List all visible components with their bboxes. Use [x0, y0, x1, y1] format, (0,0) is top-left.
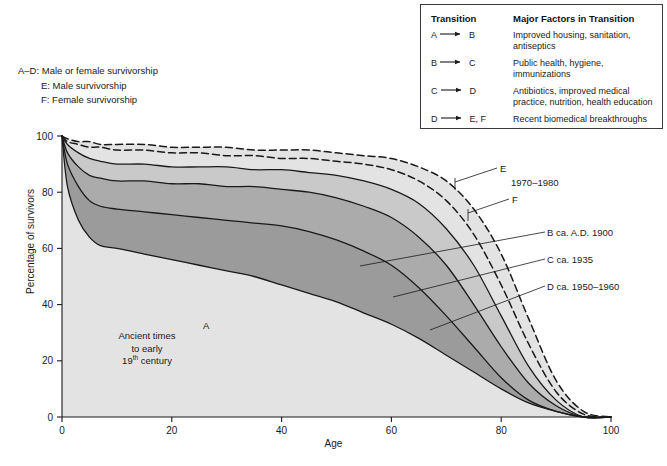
legend-rows: ABImproved housing, sanitation, antisept… [431, 30, 654, 131]
arrow-right-icon [440, 58, 466, 69]
transition-legend: Transition Major Factors in Transition A… [420, 4, 663, 129]
transition-to: D [470, 86, 477, 96]
ancient-line-2: to early [131, 343, 162, 354]
arrow-right-icon [441, 114, 467, 125]
x-tick-label: 20 [166, 425, 178, 436]
curve-label-a: A [203, 320, 209, 331]
transition-legend-table: Transition Major Factors in Transition A… [431, 13, 654, 131]
transition-from: C [431, 86, 438, 96]
leader-F [468, 199, 509, 213]
x-axis-title: Age [0, 438, 667, 449]
curve-label-c: C ca. 1935 [547, 254, 593, 265]
arrow-right-icon [440, 30, 466, 41]
legend-row: BCPublic health, hygiene, immunizations [431, 58, 654, 86]
key-line-ad: A–D: Male or female survivorship [18, 64, 158, 79]
x-tick-label: 40 [276, 425, 288, 436]
y-tick-label: 100 [36, 131, 53, 142]
y-axis-title: Percentage of survivors [25, 132, 36, 352]
legend-row: DE, FRecent biomedical breakthroughs [431, 114, 654, 131]
survivorship-figure: 020406080100020406080100 Percentage of s… [0, 0, 667, 466]
ancient-line-3-number: 19 [122, 355, 133, 366]
ancient-line-3-rest: century [138, 355, 172, 366]
transition-from: A [431, 30, 437, 40]
key-line-f: F: Female survivorship [18, 93, 158, 108]
legend-header-transition: Transition [431, 13, 513, 30]
curve-label-f: F [512, 194, 518, 205]
y-tick-label: 0 [47, 412, 53, 423]
curve-label-e: E [500, 163, 506, 174]
survivorship-key: A–D: Male or female survivorship E: Male… [18, 64, 158, 108]
ancient-line-1: Ancient times [118, 330, 175, 341]
transition-to: C [469, 58, 476, 68]
curve-label-years: 1970–1980 [511, 177, 559, 188]
curve-label-d: D ca. 1950–1960 [547, 281, 619, 292]
transition-to: B [469, 30, 475, 40]
key-line-e: E: Male survivorship [18, 79, 158, 94]
legend-transition-cell: AB [431, 30, 513, 58]
legend-factors-cell: Antibiotics, improved medical practice, … [513, 86, 654, 114]
x-tick-label: 80 [496, 425, 508, 436]
legend-factors-cell: Recent biomedical breakthroughs [513, 114, 654, 131]
arrow-right-icon [441, 86, 467, 97]
leader-E [455, 168, 497, 182]
x-tick-label: 100 [603, 425, 620, 436]
legend-transition-cell: BC [431, 58, 513, 86]
x-tick-label: 0 [59, 425, 65, 436]
x-tick-label: 60 [386, 425, 398, 436]
legend-transition-cell: DE, F [431, 114, 513, 131]
y-tick-label: 20 [42, 355, 54, 366]
legend-header-row: Transition Major Factors in Transition [431, 13, 654, 30]
legend-transition-cell: CD [431, 86, 513, 114]
y-tick-label: 80 [42, 187, 54, 198]
transition-to: E, F [470, 114, 487, 124]
transition-from: B [431, 58, 437, 68]
legend-header-factors: Major Factors in Transition [513, 13, 654, 30]
legend-row: ABImproved housing, sanitation, antisept… [431, 30, 654, 58]
curve-label-b: B ca. A.D. 1900 [547, 227, 613, 238]
y-tick-label: 40 [42, 299, 54, 310]
transition-from: D [431, 114, 438, 124]
ancient-times-note: Ancient times to early 19th century [88, 330, 206, 368]
legend-row: CDAntibiotics, improved medical practice… [431, 86, 654, 114]
y-tick-label: 60 [42, 243, 54, 254]
legend-factors-cell: Improved housing, sanitation, antiseptic… [513, 30, 654, 58]
legend-factors-cell: Public health, hygiene, immunizations [513, 58, 654, 86]
